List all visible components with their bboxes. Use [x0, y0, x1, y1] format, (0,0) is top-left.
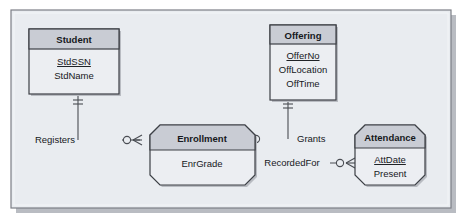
- registers-optional-circle: [123, 136, 130, 143]
- er-diagram: Registers Grants RecordedFor RecordedFor…: [0, 0, 462, 221]
- er-diagram-canvas: Registers Grants RecordedFor RecordedFor…: [0, 0, 462, 221]
- enrollment-attribute-enrgrade: EnrGrade: [181, 158, 222, 169]
- attendance-name: Attendance: [364, 132, 416, 143]
- entity-enrollment[interactable]: Enrollment EnrGrade: [150, 125, 257, 187]
- offering-attribute-offtime: OffTime: [286, 78, 319, 89]
- attendance-attribute-attdate: AttDate: [374, 154, 406, 165]
- offering-attribute-offerno: OfferNo: [286, 50, 319, 61]
- attendance-attribute-present: Present: [374, 168, 407, 179]
- offering-name: Offering: [285, 30, 322, 41]
- relationship-label-grants-top: Grants: [297, 133, 326, 144]
- entity-attendance[interactable]: Attendance AttDate Present: [355, 125, 427, 187]
- student-attribute-stdname: StdName: [54, 70, 94, 81]
- relationship-label-recordedfor-top: RecordedFor: [264, 157, 319, 168]
- entity-offering[interactable]: Offering OfferNo OffLocation OffTime: [270, 25, 338, 102]
- enrollment-name: Enrollment: [177, 133, 227, 144]
- student-attribute-stdssn: StdSSN: [57, 56, 91, 67]
- student-name: Student: [56, 34, 92, 45]
- attendance-optional-circle: [336, 159, 343, 166]
- entity-student[interactable]: Student StdSSN StdName: [29, 29, 121, 96]
- relationship-label-registers: Registers: [35, 134, 75, 145]
- offering-attribute-offlocation: OffLocation: [279, 64, 327, 75]
